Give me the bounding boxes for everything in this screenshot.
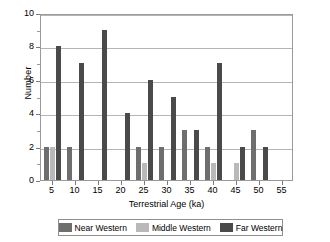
- bar: [148, 80, 153, 180]
- bar: [79, 63, 84, 180]
- legend-label: Near Western: [75, 223, 127, 233]
- x-tick-label: 5: [40, 186, 64, 195]
- bar: [159, 147, 164, 180]
- bar: [136, 147, 141, 180]
- bar: [240, 147, 245, 180]
- bar: [102, 30, 107, 180]
- legend-label: Far Western: [236, 223, 283, 233]
- legend-swatch: [220, 223, 233, 232]
- bar: [182, 130, 187, 180]
- x-axis-title: Terrestrial Age (ka): [40, 199, 293, 209]
- bar: [234, 163, 239, 180]
- legend-swatch: [59, 223, 72, 232]
- plot-area: [40, 14, 293, 181]
- bar: [50, 147, 55, 180]
- y-tick-label: 4: [14, 109, 34, 118]
- bar: [44, 147, 49, 180]
- bar: [211, 163, 216, 180]
- x-tick-label: 50: [247, 186, 271, 195]
- y-tick-mark: [36, 181, 40, 182]
- x-tick-label: 40: [201, 186, 225, 195]
- legend-swatch: [136, 223, 149, 232]
- bar: [217, 63, 222, 180]
- bar: [171, 97, 176, 181]
- bar-chart: Number 0246810 510152025303540455055 Ter…: [0, 0, 330, 242]
- bar: [251, 130, 256, 180]
- y-tick-label: 10: [14, 9, 34, 18]
- bar: [67, 147, 72, 180]
- x-tick-label: 35: [178, 186, 202, 195]
- bar: [56, 46, 61, 180]
- y-tick-label: 0: [14, 176, 34, 185]
- x-tick-label: 45: [224, 186, 248, 195]
- legend-item: Middle Western: [136, 223, 211, 233]
- y-tick-label: 2: [14, 143, 34, 152]
- x-tick-label: 25: [132, 186, 156, 195]
- bar: [194, 130, 199, 180]
- bar: [142, 163, 147, 180]
- legend-item: Far Western: [220, 223, 283, 233]
- bar: [125, 113, 130, 180]
- legend-item: Near Western: [59, 223, 127, 233]
- x-tick-label: 10: [63, 186, 87, 195]
- gridline: [41, 15, 292, 16]
- bar: [263, 147, 268, 180]
- legend-label: Middle Western: [152, 223, 211, 233]
- chart-legend: Near WesternMiddle WesternFar Western: [58, 219, 283, 236]
- gridline: [41, 48, 292, 49]
- y-tick-label: 6: [14, 76, 34, 85]
- x-tick-label: 15: [86, 186, 110, 195]
- x-tick-label: 20: [109, 186, 133, 195]
- x-tick-label: 55: [270, 186, 294, 195]
- y-tick-label: 8: [14, 42, 34, 51]
- x-tick-label: 30: [155, 186, 179, 195]
- bar: [205, 147, 210, 180]
